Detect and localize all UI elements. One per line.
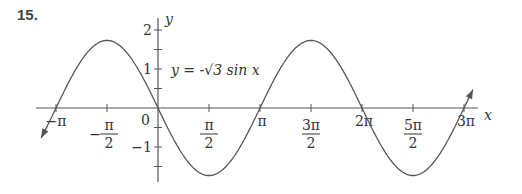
- equation-label: y = -√3 sin x: [170, 62, 260, 78]
- x-tick-label: 3π: [302, 117, 320, 133]
- x-tick-label: 2: [409, 135, 418, 151]
- x-tick-label: 0: [141, 112, 150, 128]
- arrow-head-icon: [466, 90, 473, 100]
- arrow-head-icon: [41, 128, 48, 138]
- y-axis-label: y: [164, 11, 174, 27]
- y-tick-label: −1: [131, 139, 152, 155]
- y-tick-label: 1: [143, 61, 152, 77]
- x-tick-label: 3π: [457, 113, 475, 129]
- x-tick-label: π: [257, 113, 266, 129]
- x-tick-label: 2: [205, 135, 214, 151]
- x-tick-label: π: [104, 117, 113, 133]
- figure: 15. 21−1yx−π−π20π2π3π22π5π23πy = -√3 sin…: [0, 0, 522, 194]
- x-tick-label: 5π: [404, 117, 422, 133]
- x-axis-label: x: [484, 107, 492, 123]
- x-tick-label: π: [204, 117, 213, 133]
- sine-graph: 21−1yx−π−π20π2π3π22π5π23πy = -√3 sin x: [0, 0, 522, 194]
- y-tick-label: 2: [143, 22, 152, 38]
- x-tick-label: 2: [105, 135, 114, 151]
- svg-text:−: −: [89, 126, 101, 142]
- x-tick-label: 2: [307, 135, 316, 151]
- x-tick-label: −π: [46, 113, 67, 129]
